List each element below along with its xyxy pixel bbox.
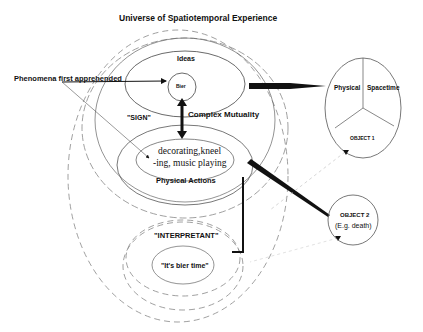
physical-actions-label: Physical Actions [156,177,216,185]
mutuality-arrow-down-head [177,131,187,139]
mutuality-arrow-up-head [177,98,187,106]
complex-mutuality-label: Complex Mutuality [188,111,259,119]
phenomena-label: Phenomena first apprehended [14,75,122,83]
object1-divider-left [335,108,363,128]
object2-return-line [250,238,338,262]
decorating-line2: -ing, music playing [153,159,227,169]
object2-example: (E.g. death) [335,222,372,229]
sign-label: "SIGN" [127,114,151,121]
diagram-title: Universe of Spatiotemporal Experience [119,14,277,23]
decorating-line1: decorating,kneel [158,147,221,157]
object2-circle [328,195,378,245]
arrow-to-object2 [247,159,330,217]
arrow-to-object1 [249,83,326,89]
ideas-label: Ideas [177,55,195,62]
object1-spacetime-label: Spacetime [367,85,400,92]
object1-physical-label: Physical [334,85,360,92]
object1-label: OBJECT 1 [350,136,374,141]
sign-ellipse [82,38,288,218]
interpretant-label: "INTERPRETANT" [154,232,218,240]
object1-divider-right [363,108,394,126]
bier-label: Bier [176,84,186,89]
bier-time-label: "It's bier time" [161,262,209,269]
object2-label: OBJECT 2 [340,212,369,218]
